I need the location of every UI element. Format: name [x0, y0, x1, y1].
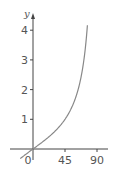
x-ticks: 04590	[25, 149, 105, 167]
y-axis-arrow-icon	[31, 13, 35, 19]
tan-chart: y 1234 04590	[0, 0, 113, 173]
y-tick-label: 4	[21, 24, 28, 37]
y-axis-label: y	[23, 8, 30, 19]
x-tick-label: 0	[25, 154, 32, 167]
y-tick-label: 1	[21, 113, 28, 126]
tan-curve	[20, 25, 87, 158]
y-tick-label: 2	[21, 84, 28, 97]
y-tick-label: 3	[21, 54, 28, 67]
x-tick-label: 90	[90, 154, 104, 167]
x-tick-label: 45	[58, 154, 72, 167]
y-ticks: 1234	[21, 24, 33, 126]
